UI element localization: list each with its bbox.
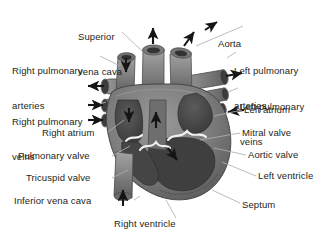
label-right-pulmonary-arteries-line1: Right pulmonary bbox=[12, 65, 83, 77]
label-pulmonary-valve: Pulmonary valve bbox=[18, 150, 90, 162]
label-inferior-vena-cava: Inferior vena cava bbox=[14, 195, 91, 207]
label-left-pulmonary-veins: Left pulmonary veins bbox=[240, 78, 304, 159]
label-mitral-valve: Mitral valve bbox=[242, 127, 291, 139]
label-left-pulmonary-arteries-line1: Left pulmonary bbox=[234, 65, 298, 77]
label-left-atrium: Left atrium bbox=[244, 104, 290, 116]
label-left-ventricle: Left ventricle bbox=[258, 170, 313, 182]
label-aortic-valve: Aortic valve bbox=[248, 149, 298, 161]
label-superior-vena-cava-line2: vena cava bbox=[78, 66, 122, 78]
label-right-atrium: Right atrium bbox=[42, 127, 94, 139]
label-tricuspid-valve: Tricuspid valve bbox=[26, 172, 91, 184]
label-superior-vena-cava-line1: Superior bbox=[78, 31, 122, 43]
aorta-outflow-arrow bbox=[184, 32, 194, 46]
label-right-ventricle: Right ventricle bbox=[114, 218, 176, 230]
label-right-pulmonary-veins-line1: Right pulmonary bbox=[12, 116, 83, 128]
label-superior-vena-cava: Superior vena cava bbox=[78, 8, 122, 89]
mid-upper-arrow bbox=[205, 22, 217, 30]
label-septum: Septum bbox=[242, 199, 275, 211]
